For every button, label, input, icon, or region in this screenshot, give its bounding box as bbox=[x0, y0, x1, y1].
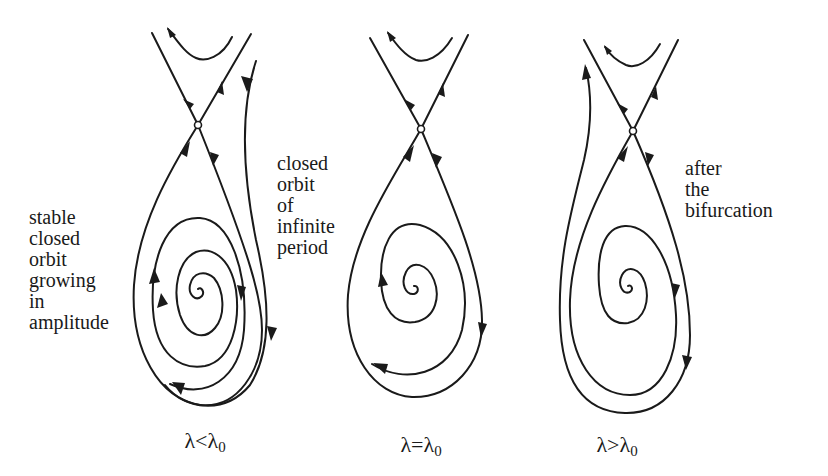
unstable-manifold-spiral bbox=[570, 131, 676, 395]
arrow-icon bbox=[478, 322, 487, 338]
teardrop-outer-loop bbox=[134, 125, 262, 405]
annotation-stable-closed-orbit: stable closed orbit growing in amplitude bbox=[29, 207, 109, 333]
caption-main: λ>λ bbox=[596, 432, 630, 457]
arrow-icon bbox=[378, 272, 388, 287]
separatrix-left-upper bbox=[152, 33, 198, 125]
arrow-icon bbox=[582, 64, 591, 80]
arrow-icon bbox=[180, 141, 190, 157]
caption-subscript: 0 bbox=[630, 443, 638, 459]
caption-subscript: 0 bbox=[218, 439, 226, 455]
panel-after-bifurcation bbox=[560, 40, 692, 413]
annotation-after-bifurcation: after the bifurcation bbox=[685, 158, 773, 221]
arrow-icon bbox=[373, 363, 388, 374]
caption-subscript: 0 bbox=[434, 443, 442, 459]
arrow-icon bbox=[267, 326, 277, 341]
upper-hyperbolic-trajectory bbox=[388, 33, 452, 61]
saddle-point bbox=[195, 122, 202, 129]
saddle-point bbox=[418, 126, 425, 133]
bifurcation-figure bbox=[0, 0, 828, 476]
spiral-trajectory bbox=[372, 224, 465, 374]
panel-before-bifurcation bbox=[134, 27, 277, 406]
panel-at-bifurcation bbox=[348, 31, 487, 397]
upper-hyperbolic-trajectory bbox=[605, 44, 660, 66]
annotation-closed-orbit-infinite-period: closed orbit of infinite period bbox=[277, 153, 335, 258]
outer-incoming-trajectory bbox=[165, 61, 267, 406]
arrow-icon bbox=[157, 293, 168, 308]
separatrix-right-upper bbox=[633, 40, 678, 131]
caption-lambda-equal: λ=λ0 bbox=[400, 432, 441, 460]
caption-lambda-greater: λ>λ0 bbox=[596, 432, 637, 460]
arrow-icon bbox=[682, 355, 692, 370]
arrow-icon bbox=[149, 268, 160, 284]
saddle-point bbox=[630, 128, 637, 135]
caption-lambda-less: λ<λ0 bbox=[184, 428, 225, 456]
homoclinic-orbit bbox=[348, 129, 482, 397]
caption-main: λ<λ bbox=[184, 428, 218, 453]
caption-main: λ=λ bbox=[400, 432, 434, 457]
arrow-icon bbox=[403, 145, 414, 162]
separatrix-left-upper bbox=[370, 38, 421, 129]
upper-hyperbolic-trajectory bbox=[168, 29, 232, 59]
